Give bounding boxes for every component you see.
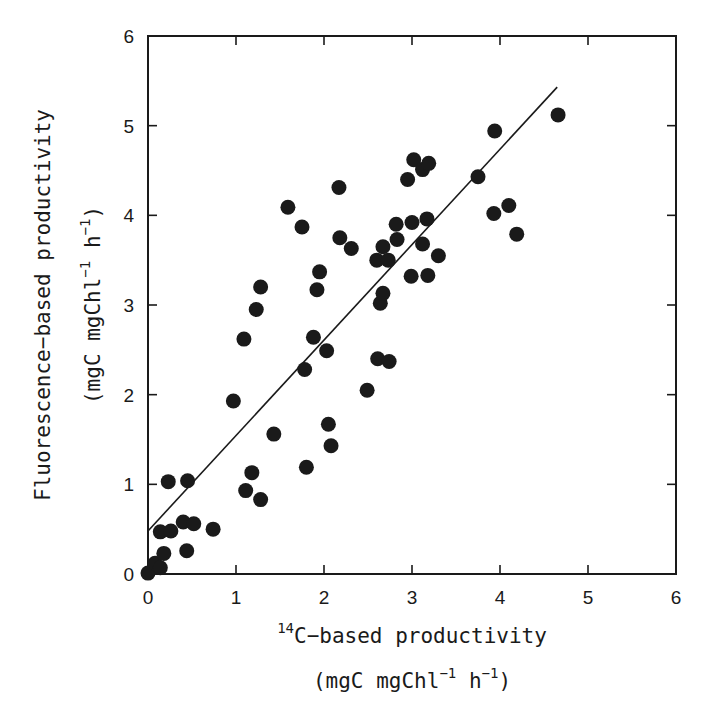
data-point (405, 215, 420, 230)
data-point (375, 239, 390, 254)
y-tick-label: 1 (123, 474, 134, 495)
data-point (404, 269, 419, 284)
data-point (186, 516, 201, 531)
data-point (390, 232, 405, 247)
data-point (306, 330, 321, 345)
data-point (486, 206, 501, 221)
data-point (375, 286, 390, 301)
data-point (226, 393, 241, 408)
data-point (236, 332, 251, 347)
background (0, 0, 706, 717)
data-point (509, 227, 524, 242)
data-point (153, 560, 168, 575)
data-point (299, 460, 314, 475)
data-point (487, 124, 502, 139)
data-point (266, 427, 281, 442)
data-point (471, 169, 486, 184)
data-point (360, 383, 375, 398)
data-point (297, 362, 312, 377)
data-point (295, 219, 310, 234)
x-tick-label: 0 (143, 587, 154, 608)
data-point (161, 474, 176, 489)
data-point (280, 200, 295, 215)
y-tick-label: 2 (123, 385, 134, 406)
data-point (249, 302, 264, 317)
data-point (238, 483, 253, 498)
data-point (332, 230, 347, 245)
data-point (163, 523, 178, 538)
data-point (431, 248, 446, 263)
scatter-chart: 0123456 0123456 Fluorescence−based produ… (0, 0, 706, 717)
x-tick-label: 4 (495, 587, 506, 608)
data-point (389, 217, 404, 232)
data-point (253, 280, 268, 295)
y-tick-label: 6 (123, 26, 134, 47)
data-point (319, 343, 334, 358)
data-point (253, 492, 268, 507)
data-point (419, 211, 434, 226)
data-point (312, 264, 327, 279)
data-point (206, 522, 221, 537)
y-tick-label: 3 (123, 295, 134, 316)
y-tick-label: 5 (123, 116, 134, 137)
data-point (501, 198, 516, 213)
data-point (421, 156, 436, 171)
y-tick-label: 4 (123, 205, 134, 226)
x-axis-label-line2: (mgC mgChl−1 h−1) (313, 665, 511, 693)
y-axis-label-line2: (mgC mgChl−1 h−1) (77, 206, 105, 404)
data-point (321, 417, 336, 432)
y-axis-label-line1: Fluorescence−based productivity (31, 109, 55, 501)
data-point (331, 180, 346, 195)
data-point (344, 241, 359, 256)
data-point (415, 237, 430, 252)
data-point (309, 282, 324, 297)
y-tick-label: 0 (123, 564, 134, 585)
data-point (381, 253, 396, 268)
data-point (420, 268, 435, 283)
data-point (180, 473, 195, 488)
x-axis-label-line1: 14C−based productivity (277, 620, 547, 648)
x-tick-label: 6 (671, 587, 682, 608)
data-point (244, 465, 259, 480)
data-point (551, 107, 566, 122)
data-point (382, 354, 397, 369)
data-point (324, 438, 339, 453)
x-tick-label: 3 (407, 587, 418, 608)
data-point (156, 546, 171, 561)
x-tick-label: 1 (231, 587, 242, 608)
data-point (179, 543, 194, 558)
data-point (400, 172, 415, 187)
x-tick-label: 2 (319, 587, 330, 608)
x-tick-label: 5 (583, 587, 594, 608)
